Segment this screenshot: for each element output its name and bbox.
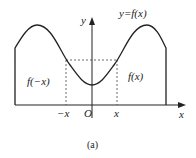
right-region-label: f(x) [128,70,144,83]
x-axis-label: x [178,108,184,120]
pos-x-tick-label: x [113,107,119,119]
curve-label: y=f(x) [118,7,147,20]
function-curve [15,25,166,105]
y-axis-arrow-icon [89,17,95,25]
neg-x-tick-label: −x [57,107,69,119]
origin-label: O [84,107,92,119]
y-axis-label: y [80,14,86,26]
figure-caption: (a) [87,139,98,151]
left-region-label: f(−x) [27,75,50,88]
even-function-diagram: y=f(x) y x O −x x f(−x) f(x) (a) [0,0,196,158]
